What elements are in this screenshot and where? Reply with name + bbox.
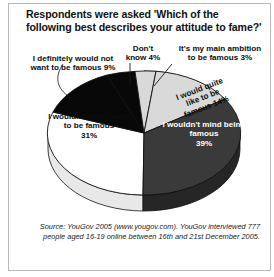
- chart-source-note: Source: YouGov 2005 (www.yougov.com). Yo…: [20, 222, 260, 241]
- chart-page: Respondents were asked 'Which of the fol…: [0, 0, 274, 277]
- chart-title: Respondents were asked 'Which of the fol…: [26, 8, 266, 33]
- pie-label-main-ambition: It's my main ambition to be famous 3%: [166, 44, 274, 63]
- pie-label-definitely-not: I definitely would not want to be famous…: [21, 54, 125, 73]
- pie-label-not-really: I wouldn't really want to be famous 31%: [37, 112, 141, 140]
- pie-chart: I definitely would not want to be famous…: [9, 36, 270, 216]
- pie-label-dont-know: Don't know 4%: [121, 44, 165, 63]
- pie-label-wouldnt-mind: I wouldn't mind being famous 39%: [149, 120, 259, 148]
